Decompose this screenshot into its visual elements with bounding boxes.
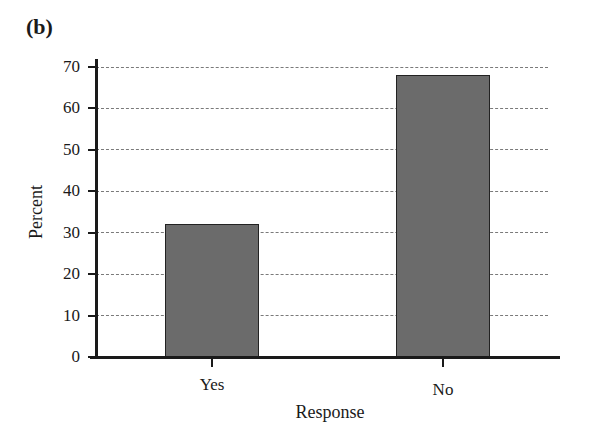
gridline bbox=[96, 67, 548, 68]
bar-chart: (b) 010203040506070YesNo Percent Respons… bbox=[0, 0, 604, 448]
y-tick-label: 70 bbox=[50, 58, 80, 75]
y-tick-label: 60 bbox=[50, 99, 80, 116]
y-tick-label: 20 bbox=[50, 265, 80, 282]
x-tick bbox=[211, 357, 213, 367]
y-axis bbox=[95, 59, 98, 359]
y-tick-label: 40 bbox=[50, 182, 80, 199]
x-tick-label: Yes bbox=[200, 376, 225, 393]
y-tick-label: 0 bbox=[50, 348, 80, 365]
x-axis-label: Response bbox=[296, 402, 365, 423]
x-tick-label: No bbox=[433, 381, 454, 398]
x-tick bbox=[442, 357, 444, 367]
y-axis-label: Percent bbox=[26, 185, 47, 239]
panel-label: (b) bbox=[26, 14, 53, 40]
y-tick-label: 50 bbox=[50, 141, 80, 158]
bar-no bbox=[396, 75, 490, 357]
x-axis bbox=[90, 356, 560, 359]
bar-yes bbox=[165, 224, 259, 357]
y-tick-label: 30 bbox=[50, 224, 80, 241]
y-tick-label: 10 bbox=[50, 307, 80, 324]
